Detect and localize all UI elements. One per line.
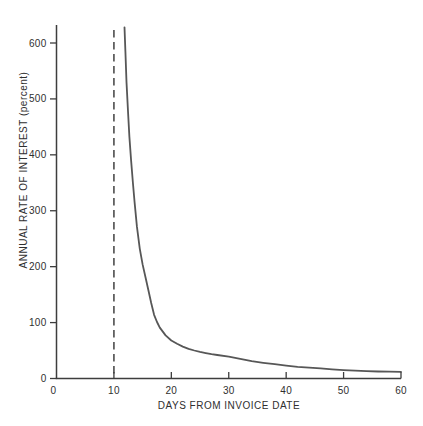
annualized-interest-cost-curve xyxy=(125,27,402,372)
tick-labels: 01002003004005006000102030405060 xyxy=(29,38,407,397)
y-tick-label: 100 xyxy=(29,317,47,328)
series-group xyxy=(125,27,402,372)
x-tick-label: 30 xyxy=(223,385,235,396)
interest-rate-chart: 01002003004005006000102030405060 ANNUAL … xyxy=(0,0,423,426)
x-axis-title: DAYS FROM INVOICE DATE xyxy=(158,400,300,411)
y-tick-label: 0 xyxy=(41,373,47,384)
x-tick-label: 50 xyxy=(338,385,350,396)
x-tick-label: 0 xyxy=(51,385,57,396)
x-tick-label: 40 xyxy=(280,385,292,396)
y-axis-title: ANNUAL RATE OF INTEREST (percent) xyxy=(18,72,29,269)
tick-marks xyxy=(50,43,401,379)
y-tick-label: 500 xyxy=(29,93,47,104)
x-tick-label: 20 xyxy=(165,385,177,396)
y-tick-label: 300 xyxy=(29,205,47,216)
y-tick-label: 400 xyxy=(29,149,47,160)
y-tick-label: 200 xyxy=(29,261,47,272)
x-tick-label: 10 xyxy=(108,385,120,396)
y-tick-label: 600 xyxy=(29,38,47,49)
chart-figure: 01002003004005006000102030405060 ANNUAL … xyxy=(0,0,423,426)
axes xyxy=(56,25,401,379)
x-tick-label: 60 xyxy=(395,385,407,396)
